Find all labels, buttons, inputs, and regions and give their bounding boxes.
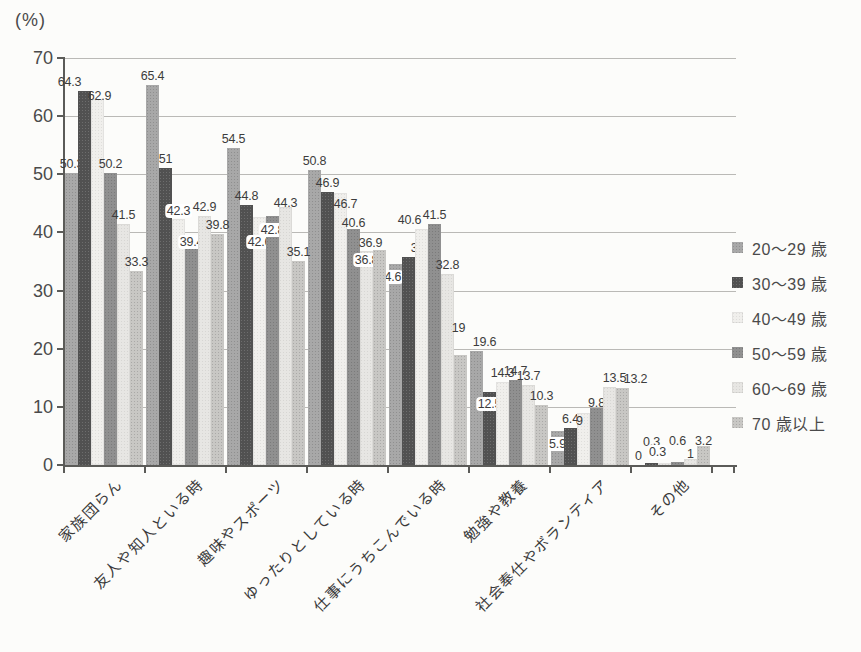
bar xyxy=(78,91,91,465)
bar-value-label: 51 xyxy=(159,152,173,166)
bar xyxy=(616,388,629,465)
bar xyxy=(697,446,710,465)
x-axis-tick xyxy=(144,467,146,473)
bar xyxy=(65,173,78,465)
bar-value-label: 0.6 xyxy=(669,434,686,448)
bar-value-label: 40.6 xyxy=(398,213,422,227)
bar-value-label: 36.9 xyxy=(359,236,383,250)
bar-value-label: 41.5 xyxy=(112,208,136,222)
legend-label: 40〜49 歳 xyxy=(752,306,828,330)
bar-value-label: 32.8 xyxy=(436,258,460,272)
bar xyxy=(415,229,428,465)
x-axis-tick xyxy=(306,467,308,473)
legend-label: 70 歳以上 xyxy=(752,411,825,435)
x-axis-tick xyxy=(225,467,227,473)
y-axis-tick-label: 50 xyxy=(11,164,53,185)
bar-value-label: 42.9 xyxy=(193,200,217,214)
bar-value-label: 19.6 xyxy=(473,335,497,349)
bar-chart-figure: (%) 01020304050607050.365.454.550.834.61… xyxy=(0,0,861,652)
x-axis-category-label: 仕事にうちこんでいる時 xyxy=(308,473,450,615)
x-axis-tick xyxy=(630,467,632,473)
bar xyxy=(198,216,211,465)
legend-item: 20〜29 歳 xyxy=(732,230,828,265)
legend-item: 40〜49 歳 xyxy=(732,300,828,335)
legend-label: 30〜39 歳 xyxy=(752,271,828,295)
bar xyxy=(454,355,467,465)
bar xyxy=(360,251,373,465)
bar xyxy=(603,387,616,465)
x-axis-category-label: 家族団らん xyxy=(53,473,126,546)
bar xyxy=(334,193,347,465)
gridline xyxy=(63,116,736,117)
legend-swatch xyxy=(732,312,743,323)
x-axis-tick xyxy=(549,467,551,473)
x-axis-category-label: 社会奉仕やボランティア xyxy=(470,473,612,615)
bar-value-label: 46.7 xyxy=(334,197,358,211)
bar xyxy=(658,463,671,465)
bar-value-label: 0.3 xyxy=(647,445,668,459)
y-axis-tick-label: 30 xyxy=(11,281,53,302)
bar-value-label: 33.3 xyxy=(125,255,149,269)
bar xyxy=(373,250,386,465)
bar-value-label: 62.9 xyxy=(88,89,112,103)
bar-value-label: 44.3 xyxy=(274,196,298,210)
bar xyxy=(496,382,509,465)
bar-value-label: 13.5 xyxy=(603,371,627,385)
bar xyxy=(564,428,577,465)
bar-value-label: 54.5 xyxy=(222,132,246,146)
legend-item: 50〜59 歳 xyxy=(732,335,828,370)
bar xyxy=(185,236,198,465)
bar-value-label: 39.8 xyxy=(206,218,230,232)
bar-value-label: 9 xyxy=(576,414,583,428)
x-axis-category-label: 勉強や教養 xyxy=(458,473,531,546)
legend-label: 50〜59 歳 xyxy=(752,341,828,365)
y-axis-tick-label: 20 xyxy=(11,339,53,360)
bar xyxy=(146,85,159,465)
bar xyxy=(671,462,684,465)
x-axis-tick xyxy=(63,467,65,473)
bar xyxy=(130,271,143,465)
x-axis-tick xyxy=(711,467,713,473)
bar-value-label: 35.1 xyxy=(287,245,311,259)
bar xyxy=(321,192,334,465)
bar-value-label: 64.3 xyxy=(58,75,82,89)
bar xyxy=(389,264,402,465)
bar-value-label: 46.9 xyxy=(316,176,340,190)
bar-value-label: 50.8 xyxy=(303,154,327,168)
bar-value-label: 13.2 xyxy=(624,372,648,386)
bar xyxy=(308,170,321,465)
y-axis-tick-label: 0 xyxy=(11,455,53,476)
legend-item: 70 歳以上 xyxy=(732,405,828,440)
y-axis-tick-label: 10 xyxy=(11,397,53,418)
legend-swatch xyxy=(732,242,743,253)
x-axis-tick xyxy=(387,467,389,473)
x-axis-tick xyxy=(733,467,735,473)
bar-value-label: 50.2 xyxy=(99,157,123,171)
y-axis-tick-label: 70 xyxy=(11,48,53,69)
bar-value-label: 41.5 xyxy=(423,208,447,222)
y-axis-unit-label: (%) xyxy=(15,10,46,31)
bar xyxy=(535,405,548,465)
bar-value-label: 10.3 xyxy=(530,389,554,403)
legend-swatch xyxy=(732,417,743,428)
bar-value-label: 0 xyxy=(635,449,642,463)
bar xyxy=(590,408,603,465)
bar-value-label: 65.4 xyxy=(141,69,165,83)
bar xyxy=(211,234,224,465)
bar-value-label: 44.8 xyxy=(235,189,259,203)
bar-value-label: 13.7 xyxy=(517,369,541,383)
bar-value-label: 19 xyxy=(452,321,466,335)
legend-item: 60〜69 歳 xyxy=(732,370,828,405)
x-axis-tick xyxy=(468,467,470,473)
bar-value-label: 42.3 xyxy=(165,204,193,218)
bar-value-label: 1 xyxy=(687,447,694,461)
bar xyxy=(402,257,415,465)
x-axis-line xyxy=(63,465,737,467)
bar xyxy=(645,463,658,465)
bar xyxy=(441,274,454,465)
bar xyxy=(266,216,279,465)
legend-swatch xyxy=(732,347,743,358)
y-axis-tick-label: 40 xyxy=(11,222,53,243)
bar-value-label: 40.6 xyxy=(342,216,366,230)
y-axis-tick-label: 60 xyxy=(11,106,53,127)
